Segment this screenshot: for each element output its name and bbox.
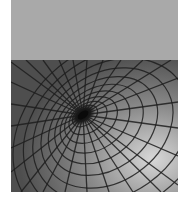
gray-upper-band xyxy=(11,0,178,60)
artwork-figure xyxy=(11,0,178,192)
warped-grid-panel xyxy=(11,60,178,192)
gravity-well-grid xyxy=(11,60,178,192)
